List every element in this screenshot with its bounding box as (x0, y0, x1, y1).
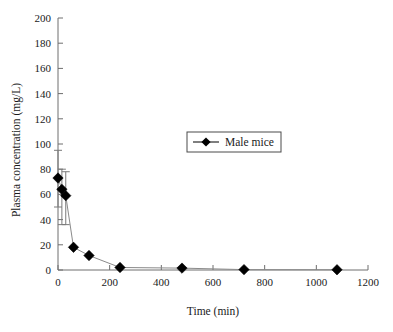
y-axis-tick-label: 40 (40, 214, 52, 226)
x-axis-tick-label: 600 (205, 276, 222, 288)
x-axis-tick-label: 400 (153, 276, 170, 288)
y-axis-tick-label: 160 (35, 62, 52, 74)
y-axis: 020406080100120140160180200 (35, 12, 64, 276)
legend-box: Male mice (187, 132, 281, 152)
chart-canvas: 020406080100120140160180200 020040060080… (0, 0, 393, 332)
y-axis-tick-label: 0 (46, 264, 52, 276)
y-axis-tick-label: 120 (35, 113, 52, 125)
y-axis-title: Plasma concentration (mg/L) (10, 83, 23, 217)
x-axis-tick-label: 1200 (357, 276, 380, 288)
y-axis-tick-label: 80 (40, 163, 52, 175)
series-line (58, 178, 337, 270)
y-axis-tick-label: 100 (35, 138, 52, 150)
legend-entry-label: Male mice (225, 136, 274, 148)
data-point-marker (239, 264, 249, 274)
y-axis-tick-label: 140 (35, 88, 52, 100)
data-point-marker (332, 265, 342, 275)
plasma-concentration-time-plot: 020406080100120140160180200 020040060080… (0, 0, 393, 332)
chart-container: 020406080100120140160180200 020040060080… (0, 0, 393, 332)
data-point-marker (115, 262, 125, 272)
x-axis: 020040060080010001200 (55, 265, 379, 288)
x-axis-tick-label: 0 (55, 276, 61, 288)
data-series-male-mice (53, 173, 342, 275)
y-axis-tick-label: 180 (35, 37, 52, 49)
data-point-marker (68, 242, 78, 252)
y-axis-tick-label: 200 (35, 12, 52, 24)
y-axis-tick-label: 20 (40, 239, 52, 251)
data-point-marker (84, 250, 94, 260)
x-axis-tick-label: 1000 (305, 276, 328, 288)
x-axis-tick-label: 800 (256, 276, 273, 288)
y-axis-tick-label: 60 (40, 188, 52, 200)
x-axis-tick-label: 200 (101, 276, 118, 288)
x-axis-title: Time (min) (187, 305, 239, 318)
data-point-marker (177, 263, 187, 273)
